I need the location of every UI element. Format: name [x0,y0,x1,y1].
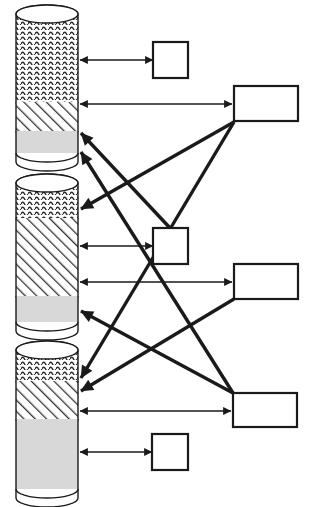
link-wide-box-bottom-to-cyl-mid-solid[interactable] [81,311,233,393]
small-box-bottom-outline[interactable] [152,434,188,470]
wide-box-bottom-outline[interactable] [233,393,297,427]
wide-box-top-outline[interactable] [234,86,298,121]
small-box-middle-outline[interactable] [153,228,188,264]
cylinder-middle-solid-segment-divider [16,322,78,331]
boxes-layer [152,42,298,470]
cylinder-top-solid-segment-divider [16,153,78,162]
cylinder-top-wave-segment [14,14,80,102]
small-box-top-outline[interactable] [153,42,188,78]
cylinders-layer [14,5,80,507]
small-box-bottom[interactable] [152,434,188,470]
cylinder-bottom [14,341,80,507]
small-box-top[interactable] [153,42,188,78]
cylinder-top [14,5,80,171]
link-small-box-middle-to-cyl-top-hatch[interactable] [81,133,170,228]
cylinder-top-top-ellipse [16,5,78,23]
link-wide-box-middle-to-cyl-bottom-hatch[interactable] [81,299,234,391]
cylinder-top-solid-segment [14,131,80,153]
cylinder-bottom-solid-segment-divider [16,489,78,498]
small-box-middle[interactable] [153,228,188,264]
cylinder-bottom-hatch-segment [14,381,80,419]
link-wide-box-top-to-cyl-mid-wave[interactable] [81,122,234,209]
cylinder-bottom-solid-segment [14,419,80,489]
cylinder-middle [14,174,80,340]
cylinder-bottom-top-ellipse [16,341,78,359]
cylinder-top-hatch-segment [14,102,80,131]
wide-box-top[interactable] [234,86,298,121]
link-wide-box-bottom-to-cyl-top-solid[interactable] [81,152,233,393]
cylinder-middle-hatch-segment [14,218,80,296]
wide-box-bottom[interactable] [233,393,297,427]
wide-box-middle-outline[interactable] [234,264,298,299]
diagram-root [0,0,314,507]
wide-box-middle[interactable] [234,264,298,299]
diagram-canvas [0,0,314,507]
cylinder-middle-top-ellipse [16,174,78,192]
cylinder-middle-solid-segment [14,296,80,322]
